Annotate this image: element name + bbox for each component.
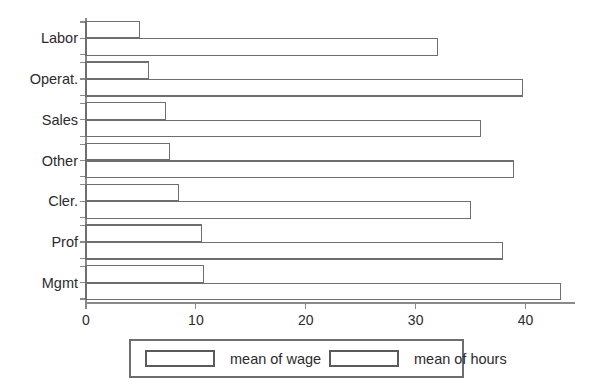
x-tick-label: 40 bbox=[518, 312, 534, 328]
bar bbox=[86, 120, 480, 136]
y-axis-category-label: Mgmt bbox=[42, 275, 78, 291]
bar bbox=[86, 39, 438, 56]
legend-label: mean of wage bbox=[230, 351, 321, 367]
chart-canvas: 010203040 LaborOperat.SalesOtherCler.Pro… bbox=[0, 0, 592, 386]
bars-group bbox=[86, 21, 561, 299]
legend-entries: mean of wagemean of hours bbox=[146, 351, 507, 367]
x-tick-label: 20 bbox=[298, 312, 314, 328]
x-axis-ticks: 010203040 bbox=[82, 303, 533, 328]
y-axis-category-label: Labor bbox=[41, 30, 78, 46]
bar bbox=[86, 242, 502, 259]
bar bbox=[86, 266, 204, 283]
legend: mean of wagemean of hours bbox=[130, 340, 507, 377]
bar bbox=[86, 184, 178, 201]
legend-swatch bbox=[330, 351, 398, 366]
x-tick-label: 0 bbox=[82, 312, 90, 328]
y-axis-category-label: Other bbox=[42, 153, 78, 169]
bar bbox=[86, 161, 513, 178]
bar bbox=[86, 225, 201, 242]
y-axis-tick-marks bbox=[80, 22, 86, 299]
x-tick-label: 30 bbox=[408, 312, 424, 328]
bar bbox=[86, 21, 140, 38]
y-axis-category-label: Cler. bbox=[48, 193, 78, 209]
bar bbox=[86, 283, 561, 300]
bar bbox=[86, 103, 165, 120]
y-axis-category-label: Sales bbox=[42, 112, 78, 128]
x-axis: 010203040 bbox=[82, 303, 575, 328]
bar bbox=[86, 202, 471, 219]
bar bbox=[86, 144, 170, 161]
bar-chart-figure: 010203040 LaborOperat.SalesOtherCler.Pro… bbox=[0, 0, 592, 386]
y-axis-category-label: Prof bbox=[51, 234, 79, 250]
y-axis-category-labels: LaborOperat.SalesOtherCler.ProfMgmt bbox=[30, 30, 79, 290]
legend-swatch bbox=[146, 351, 214, 366]
x-tick-label: 10 bbox=[188, 312, 204, 328]
bar bbox=[86, 62, 149, 78]
legend-label: mean of hours bbox=[414, 351, 507, 367]
bar bbox=[86, 80, 522, 97]
y-axis-category-label: Operat. bbox=[30, 71, 78, 87]
